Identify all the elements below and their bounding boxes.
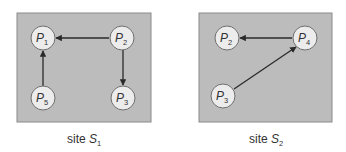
node-p2: P2 <box>215 26 239 50</box>
node-p1: P1 <box>31 26 55 50</box>
node-p2: P2 <box>110 26 134 50</box>
site-s1-panel: P1 P2 P5 P3 site S1 <box>17 13 151 148</box>
site-s2-caption: site S2 <box>249 132 283 148</box>
site-s1-caption: site S1 <box>67 132 101 148</box>
wait-for-graph-diagram: P1 P2 P5 P3 site S1 P2 P4 <box>0 0 346 152</box>
site-s2-panel: P2 P4 P3 site S2 <box>199 13 332 148</box>
node-p5: P5 <box>31 86 55 110</box>
node-p3: P3 <box>111 86 135 110</box>
node-p3: P3 <box>211 84 235 108</box>
node-p4: P4 <box>293 26 317 50</box>
